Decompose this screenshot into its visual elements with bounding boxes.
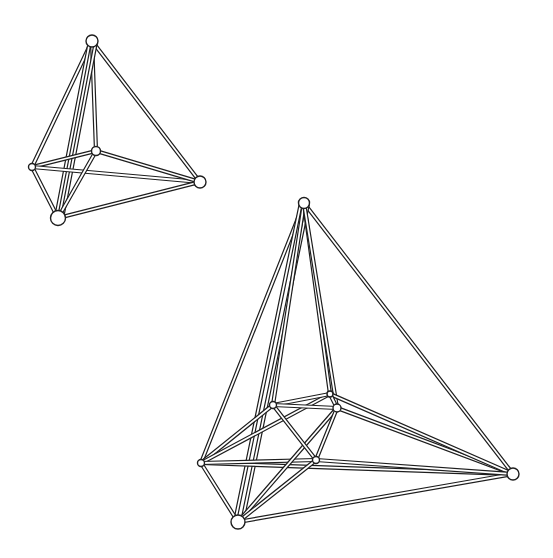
joint-node-bottom	[51, 211, 66, 226]
joint-node-left	[198, 460, 205, 467]
joint-node-inD	[313, 457, 320, 464]
illustration-canvas	[0, 0, 553, 558]
joint-node-center	[92, 147, 101, 156]
joint-node-left	[29, 164, 36, 171]
joint-node-inC	[333, 404, 341, 412]
joint-node-inB	[327, 391, 333, 397]
joint-node-right	[507, 468, 519, 480]
joint-node-inA	[270, 402, 277, 409]
joint-node-top	[86, 35, 98, 47]
joint-node-top	[299, 198, 310, 209]
joint-node-right	[194, 176, 206, 188]
joint-node-bottom	[231, 515, 245, 529]
